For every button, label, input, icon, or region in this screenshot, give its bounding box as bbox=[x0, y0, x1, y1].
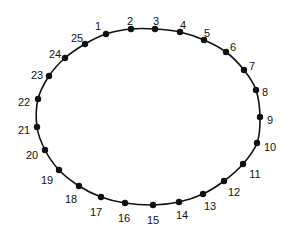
point-label-10: 10 bbox=[264, 141, 276, 153]
point-14-dot-icon bbox=[176, 199, 182, 205]
point-label-14: 14 bbox=[176, 209, 188, 221]
point-label-17: 17 bbox=[90, 206, 102, 218]
loop-points bbox=[34, 26, 263, 208]
point-label-7: 7 bbox=[249, 60, 255, 72]
point-20-dot-icon bbox=[42, 147, 48, 153]
point-label-2: 2 bbox=[127, 15, 133, 27]
point-label-13: 13 bbox=[204, 200, 216, 212]
point-label-25: 25 bbox=[71, 32, 83, 44]
point-label-24: 24 bbox=[49, 48, 61, 60]
point-23-dot-icon bbox=[46, 73, 52, 79]
point-label-23: 23 bbox=[31, 69, 43, 81]
point-label-20: 20 bbox=[26, 149, 38, 161]
loop-diagram: 1234567891011121314151617181920212223242… bbox=[0, 0, 290, 235]
point-22-dot-icon bbox=[35, 96, 41, 102]
point-labels: 1234567891011121314151617181920212223242… bbox=[18, 15, 276, 226]
point-16-dot-icon bbox=[122, 200, 128, 206]
point-11-dot-icon bbox=[240, 161, 246, 167]
point-label-15: 15 bbox=[147, 214, 159, 226]
point-10-dot-icon bbox=[254, 140, 260, 146]
point-19-dot-icon bbox=[56, 167, 62, 173]
point-18-dot-icon bbox=[76, 183, 82, 189]
diagram-canvas: 1234567891011121314151617181920212223242… bbox=[0, 0, 290, 235]
point-17-dot-icon bbox=[98, 194, 104, 200]
point-15-dot-icon bbox=[150, 202, 156, 208]
point-label-5: 5 bbox=[204, 27, 210, 39]
point-label-1: 1 bbox=[95, 20, 101, 32]
point-6-dot-icon bbox=[223, 49, 229, 55]
point-label-11: 11 bbox=[249, 168, 260, 180]
point-label-16: 16 bbox=[118, 212, 130, 224]
point-label-8: 8 bbox=[262, 86, 268, 98]
point-label-9: 9 bbox=[267, 114, 273, 126]
point-12-dot-icon bbox=[221, 178, 227, 184]
point-21-dot-icon bbox=[34, 124, 40, 130]
point-label-12: 12 bbox=[228, 186, 240, 198]
point-label-18: 18 bbox=[65, 193, 77, 205]
point-8-dot-icon bbox=[253, 87, 259, 93]
point-label-21: 21 bbox=[18, 124, 30, 136]
point-13-dot-icon bbox=[200, 191, 206, 197]
point-9-dot-icon bbox=[257, 114, 263, 120]
point-label-3: 3 bbox=[153, 15, 159, 27]
point-label-19: 19 bbox=[41, 174, 53, 186]
point-label-6: 6 bbox=[230, 41, 236, 53]
point-7-dot-icon bbox=[241, 67, 247, 73]
point-24-dot-icon bbox=[62, 55, 68, 61]
point-label-22: 22 bbox=[18, 96, 30, 108]
point-1-dot-icon bbox=[103, 31, 109, 37]
point-label-4: 4 bbox=[180, 19, 186, 31]
